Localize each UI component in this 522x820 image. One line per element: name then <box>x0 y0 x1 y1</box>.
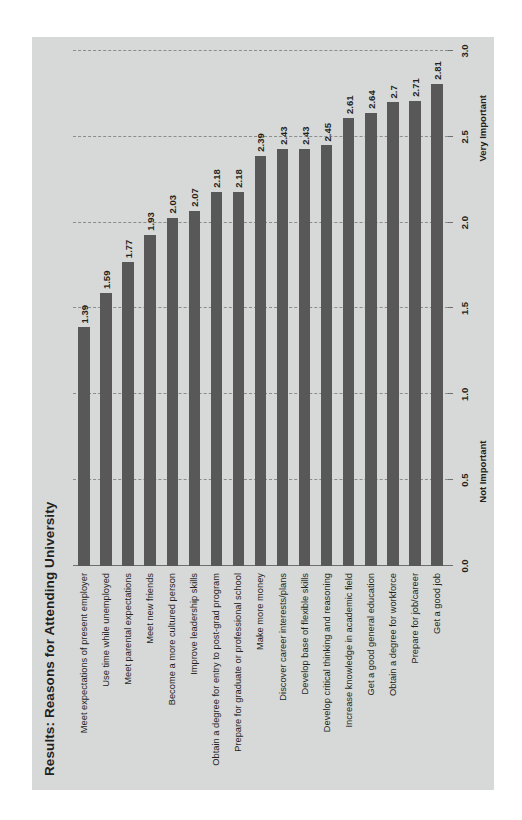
bar <box>299 149 310 566</box>
bar-row: 2.18Obtain a degree for entry to post-gr… <box>211 51 222 566</box>
bar-value-label: 1.59 <box>101 271 112 290</box>
bar-value-label: 2.39 <box>255 133 266 152</box>
bar-value-label: 2.7 <box>387 85 398 98</box>
category-label: Obtain a degree for workforce <box>388 573 398 696</box>
category-label: Get a good general education <box>366 573 376 696</box>
category-label: Discover career interests/plans <box>278 573 288 701</box>
bar-row: 1.59Use time while unemployed <box>100 51 111 566</box>
chart-page: Results: Reasons for Attending Universit… <box>0 0 522 820</box>
tick-mark <box>448 565 453 566</box>
bar-value-label: 1.77 <box>123 240 134 259</box>
bar-row: 2.39Make more money <box>255 51 266 566</box>
bar-row: 1.93Meet new friends <box>144 51 155 566</box>
tick-mark <box>448 308 453 309</box>
category-label: Meet parental expectations <box>123 573 133 685</box>
bar <box>387 103 398 567</box>
bar <box>365 113 376 566</box>
page-title: Results: Reasons for Attending Universit… <box>42 502 57 776</box>
rotated-figure-wrapper: Results: Reasons for Attending Universit… <box>32 37 494 790</box>
bar-row: 2.7Obtain a degree for workforce <box>387 51 398 566</box>
category-label: Become a more cultured person <box>167 573 177 705</box>
category-label: Get a good job <box>432 573 442 634</box>
bar <box>255 156 266 566</box>
axis-anchor-very-important: Very Important <box>477 95 488 162</box>
bar-row: 2.45Develop critical thinking and reason… <box>321 51 332 566</box>
bar <box>233 192 244 566</box>
bar-value-label: 2.81 <box>431 61 442 80</box>
category-label: Use time while unemployed <box>101 573 111 687</box>
tick-label: 2.0 <box>459 216 470 229</box>
bar <box>211 192 222 566</box>
tick-label: 0.0 <box>459 559 470 572</box>
category-label: Develop base of flexible skills <box>300 573 310 694</box>
category-label: Make more money <box>255 573 265 650</box>
bar-value-label: 2.43 <box>299 126 310 145</box>
axis-anchor-not-important: Not Important <box>477 440 488 502</box>
category-label: Develop critical thinking and reasoning <box>322 573 332 732</box>
bar <box>189 211 200 566</box>
bar-row: 2.43Discover career interests/plans <box>277 51 288 566</box>
bar-value-label: 1.93 <box>145 212 156 231</box>
bar-value-label: 2.03 <box>167 195 178 214</box>
bar-value-label: 2.18 <box>211 169 222 188</box>
bar-row: 1.77Meet parental expectations <box>122 51 133 566</box>
tick-mark <box>448 393 453 394</box>
plot-area: 0.00.51.01.52.02.53.0Not ImportantVery I… <box>73 51 448 566</box>
bar-value-label: 2.43 <box>277 126 288 145</box>
bar-value-label: 2.64 <box>365 90 376 109</box>
bar <box>431 84 442 566</box>
bar-row: 2.18Prepare for graduate or professional… <box>233 51 244 566</box>
category-label: Meet expectations of present employer <box>79 573 89 733</box>
tick-label: 3.0 <box>459 44 470 57</box>
bar-row: 2.07Improve leadership skills <box>189 51 200 566</box>
bar <box>100 293 111 566</box>
category-label: Improve leadership skills <box>189 573 199 675</box>
tick-mark <box>448 222 453 223</box>
tick-label: 2.5 <box>459 130 470 143</box>
bar <box>409 101 420 566</box>
bar <box>277 149 288 566</box>
tick-label: 0.5 <box>459 474 470 487</box>
category-label: Obtain a degree for entry to post-grad p… <box>211 573 221 766</box>
category-label: Meet new friends <box>145 573 155 644</box>
bar <box>144 235 155 566</box>
bar <box>343 118 354 566</box>
bar-value-label: 2.18 <box>233 169 244 188</box>
bar-row: 2.64Get a good general education <box>365 51 376 566</box>
bar-row: 2.03Become a more cultured person <box>167 51 178 566</box>
bar <box>78 327 89 566</box>
tick-mark <box>448 479 453 480</box>
category-label: Increase knowledge in academic field <box>344 573 354 728</box>
tick-label: 1.5 <box>459 302 470 315</box>
bar-row: 2.71Prepare for job/career <box>409 51 420 566</box>
bar-value-label: 1.39 <box>79 305 90 324</box>
bar-row: 2.43Develop base of flexible skills <box>299 51 310 566</box>
category-label: Prepare for graduate or professional sch… <box>233 573 243 752</box>
bar-value-label: 2.71 <box>409 78 420 97</box>
tick-label: 1.0 <box>459 388 470 401</box>
bar-value-label: 2.61 <box>343 95 354 114</box>
bar <box>321 145 332 566</box>
chart-figure: Results: Reasons for Attending Universit… <box>32 37 494 790</box>
bar-value-label: 2.07 <box>189 188 200 207</box>
bar-value-label: 2.45 <box>321 123 332 142</box>
category-label: Prepare for job/career <box>410 573 420 663</box>
tick-mark <box>448 50 453 51</box>
bar-row: 2.61Increase knowledge in academic field <box>343 51 354 566</box>
plot-inner: 0.00.51.01.52.02.53.0Not ImportantVery I… <box>73 51 448 566</box>
bar-row: 2.81Get a good job <box>431 51 442 566</box>
tick-mark <box>448 136 453 137</box>
bar <box>167 218 178 566</box>
bar-row: 1.39Meet expectations of present employe… <box>78 51 89 566</box>
bar <box>122 262 133 566</box>
